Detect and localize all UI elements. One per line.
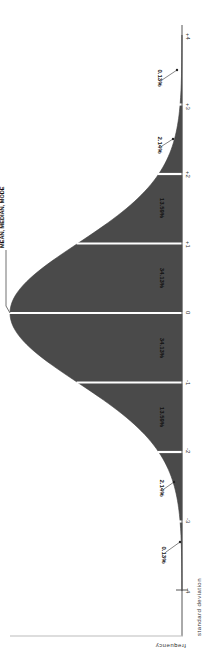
tick-label-plus-4: +4 (185, 33, 191, 41)
mean-median-mode-annotation: MEAN, MEDIAN, MODE (0, 186, 10, 313)
tick-label-minus-4: -4 (185, 588, 191, 594)
sd-tick-labels: +4 +3 +2 +1 0 -1 -2 -3 -4 (185, 33, 191, 594)
pct-label-plus3-plus4: 0.13% (157, 69, 163, 87)
tick-label-plus-3: +3 (185, 103, 191, 111)
tick-label-minus-3: -3 (185, 518, 191, 524)
pct-label-plus1-plus2: 13.59% (159, 198, 165, 219)
x-axis-label: standard deviation (196, 578, 202, 636)
tick-label-plus-2: +2 (185, 171, 191, 179)
pct-label-plus2-plus3: 2.14% (157, 136, 163, 154)
pct-label-minus4-minus3: 0.13% (161, 546, 167, 564)
tick-label-minus-1: -1 (185, 380, 191, 386)
pct-label-minus1-0: 34.13% (159, 338, 165, 359)
normal-distribution-chart: +4 +3 +2 +1 0 -1 -2 -3 -4 13.59% 34.13% … (0, 0, 208, 656)
pct-label-0-plus1: 34.13% (159, 268, 165, 289)
tick-label-zero: 0 (185, 311, 191, 315)
pct-label-minus2-minus1: 13.59% (159, 407, 165, 428)
sd-dividers (9, 105, 183, 522)
tick-label-plus-1: +1 (185, 241, 191, 249)
annotation-text: MEAN, MEDIAN, MODE (0, 186, 5, 248)
pct-label-minus3-minus2: 2.14% (159, 479, 165, 497)
y-axis-label: frequency (155, 643, 186, 649)
tick-label-minus-2: -2 (185, 448, 191, 454)
